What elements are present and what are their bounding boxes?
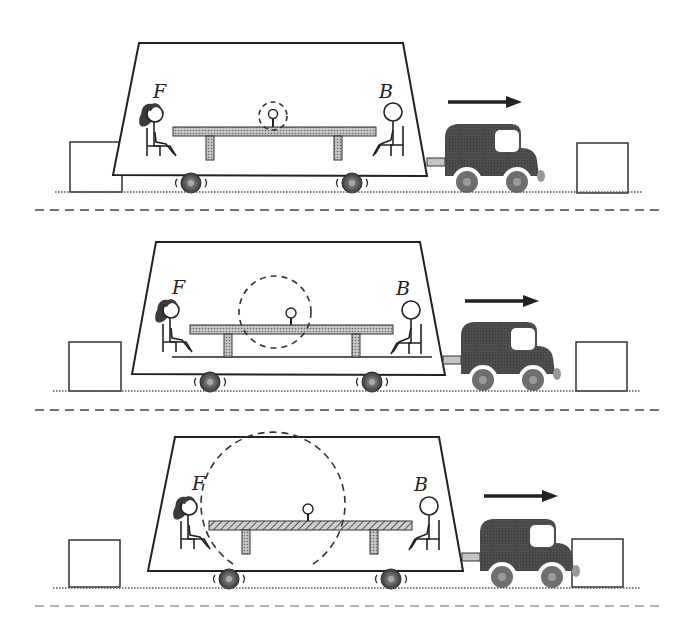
right-arrow-icon [448,96,522,108]
table-leg [334,136,342,160]
truck-icon [462,519,580,592]
table-leg [242,530,250,554]
right-arrow-icon [465,295,539,307]
right-box [576,342,627,391]
pingpong-table [173,127,376,136]
left-box [69,342,121,391]
ball-icon [303,504,313,514]
panel-1: F B [35,43,665,210]
pingpong-table [209,521,412,530]
label-f: F [152,80,167,102]
trailer-pingpong-diagram: F B F B [0,0,696,633]
truck-icon [427,124,545,197]
table-leg [352,334,360,357]
pingpong-table [190,325,393,334]
label-b: B [378,80,393,102]
right-box [572,539,623,587]
label-b: B [413,473,428,495]
truck-icon [443,322,561,395]
table-leg [370,530,378,554]
panel-3: F B [35,432,665,606]
ball-icon [269,110,278,119]
right-box [577,143,628,193]
label-f: F [171,276,186,298]
panel-2: F B [35,242,665,410]
left-box [69,540,120,587]
table-leg [206,136,214,160]
ball-icon [286,308,296,318]
label-b: B [395,277,410,299]
label-f: F [191,472,206,494]
right-arrow-icon [484,490,558,502]
table-leg [224,334,232,357]
